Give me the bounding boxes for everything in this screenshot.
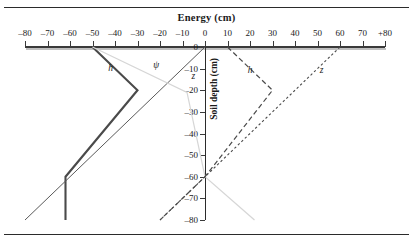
label-h-right: h [248, 65, 253, 75]
label-z-left: z [192, 71, 196, 81]
curve-z-left [25, 47, 205, 220]
label-z-right: z [320, 65, 324, 75]
curve-h-right [160, 47, 273, 220]
label-psi-left: ψ [153, 60, 159, 70]
curve-layer [0, 0, 413, 245]
label-h-left: h [108, 63, 113, 73]
curve-psi-left [93, 47, 255, 220]
figure-panel: Energy (cm) –80–70–60–50–40–30–20–100102… [0, 0, 413, 245]
curve-h-left [66, 47, 138, 220]
